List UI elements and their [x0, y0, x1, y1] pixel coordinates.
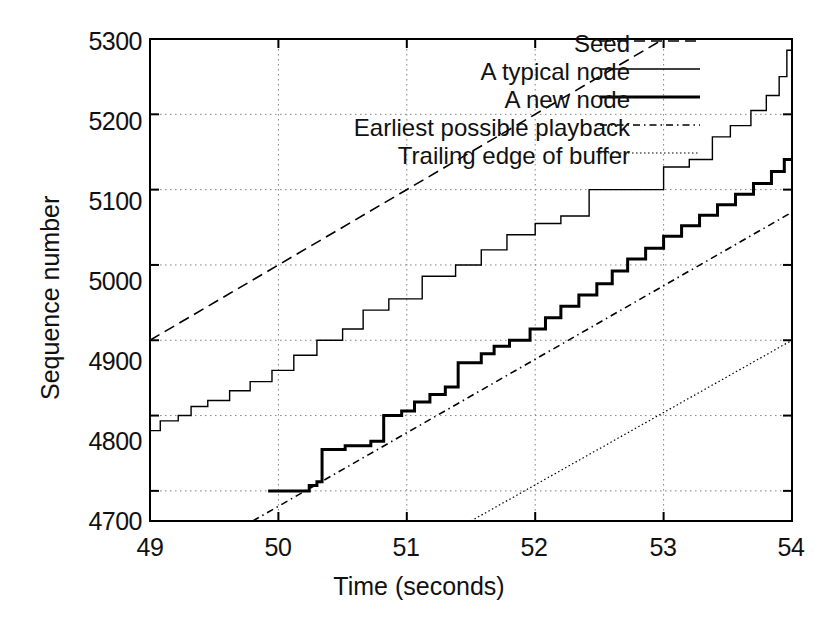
legend-label-typical-node: A typical node	[250, 58, 630, 86]
x-tick-label-51: 51	[376, 533, 436, 562]
y-tick-label-4800: 4800	[58, 427, 142, 456]
chart-container: 5300 5200 5100 5000 4900 4800 4700 49 50…	[0, 0, 838, 621]
legend-label-seed: Seed	[250, 30, 630, 58]
series-line-a-new-node	[268, 160, 792, 491]
x-tick-label-53: 53	[633, 533, 693, 562]
y-tick-label-5200: 5200	[58, 107, 142, 136]
x-tick-label-52: 52	[504, 533, 564, 562]
series-line-earliest-possible-playback	[253, 212, 792, 521]
y-tick-label-5100: 5100	[58, 187, 142, 216]
legend-label-trailing-edge: Trailing edge of buffer	[250, 142, 630, 170]
x-axis-title: Time (seconds)	[0, 572, 838, 601]
x-tick-label-49: 49	[120, 533, 180, 562]
legend-label-new-node: A new node	[250, 86, 630, 114]
series-line-trailing-edge-of-buffer	[471, 340, 792, 521]
x-tick-label-54: 54	[761, 533, 821, 562]
legend-label-earliest-playback: Earliest possible playback	[250, 114, 630, 142]
y-tick-label-5300: 5300	[58, 27, 142, 56]
x-tick-label-50: 50	[248, 533, 308, 562]
y-tick-label-4700: 4700	[58, 507, 142, 536]
y-axis-title: Sequence number	[36, 196, 65, 400]
y-tick-label-4900: 4900	[58, 347, 142, 376]
y-tick-label-5000: 5000	[58, 267, 142, 296]
